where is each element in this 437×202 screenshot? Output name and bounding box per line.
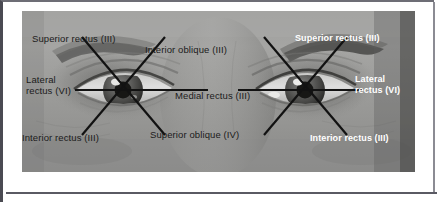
label-medial-rectus: Medial rectus (III)	[175, 90, 250, 101]
label-inferior-rectus-left: Interior rectus (III)	[22, 132, 99, 143]
label-inferior-oblique: Interior oblique (III)	[145, 44, 227, 55]
label-inferior-rectus-right: Interior rectus (III)	[310, 133, 389, 144]
label-superior-oblique: Superior oblique (IV)	[150, 129, 239, 140]
frame-right-rule	[433, 2, 435, 194]
label-lateral-rectus-right: Lateral rectus (VI)	[355, 74, 400, 95]
label-superior-rectus-left: Superior rectus (III)	[32, 33, 115, 44]
eye-photograph: Superior rectus (III) Interior oblique (…	[22, 11, 415, 172]
label-lateral-rectus-left: Lateral rectus (VI)	[26, 74, 71, 96]
label-superior-rectus-right: Superior rectus (III)	[295, 33, 380, 44]
frame-bottom-rule	[6, 192, 437, 194]
